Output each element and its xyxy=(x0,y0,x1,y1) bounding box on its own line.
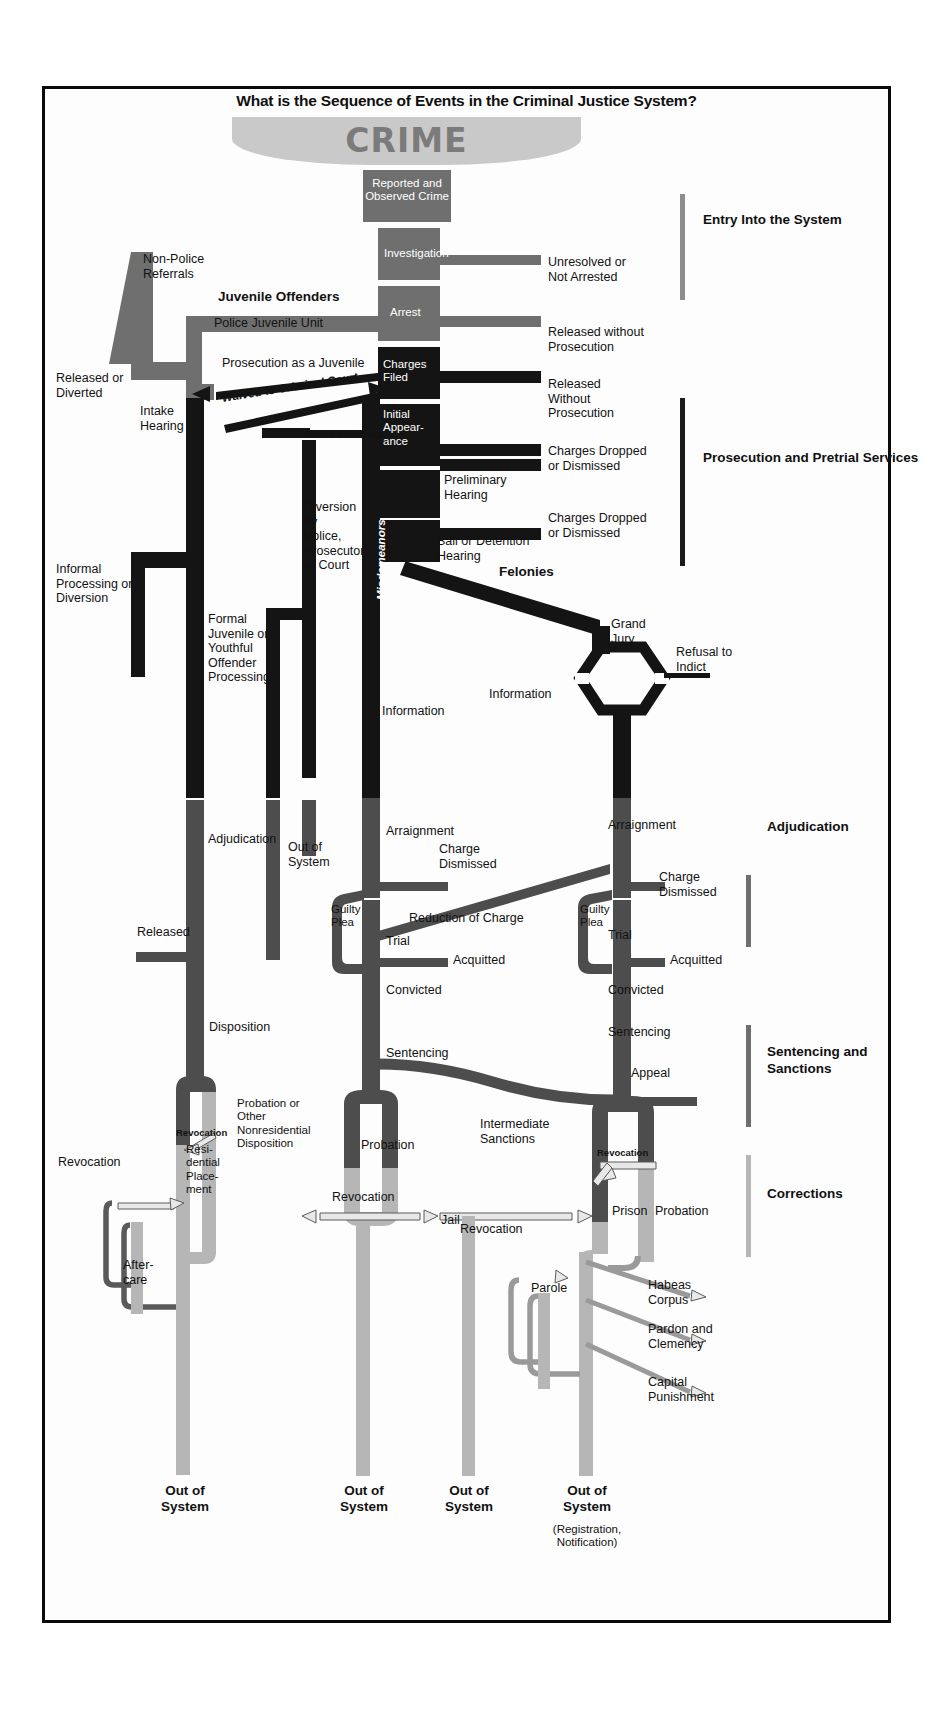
label-charge-dismissed-misdemeanor: Charge Dismissed xyxy=(439,842,497,871)
label-guilty-plea-misdemeanor: Guilty Plea xyxy=(331,903,360,930)
terminal-out-of-system-3: Out of System xyxy=(432,1483,506,1514)
section-bar-entry xyxy=(680,194,685,300)
label-probation-felony: Probation xyxy=(655,1204,709,1219)
label-released-without-prosecution-2: Released Without Prosecution xyxy=(548,377,614,421)
label-charge-dismissed-felony: Charge Dismissed xyxy=(659,870,717,899)
label-adjudication-juvenile: Adjudication xyxy=(208,832,276,847)
terminal-out-of-system-4-sub: (Registration, Notification) xyxy=(537,1523,637,1550)
label-informal-processing: Informal Processing or Diversion xyxy=(56,562,132,606)
label-felonies: Felonies xyxy=(499,564,554,580)
label-convicted-misdemeanor: Convicted xyxy=(386,983,442,998)
label-residential-placement: Resi- dential Place- ment xyxy=(186,1143,220,1196)
box-arrest: Arrest xyxy=(390,306,421,319)
label-released-juvenile: Released xyxy=(137,925,190,940)
label-disposition: Disposition xyxy=(209,1020,270,1035)
box-charges-filed: Charges Filed xyxy=(383,358,426,385)
label-refusal-to-indict: Refusal to Indict xyxy=(676,645,732,674)
label-revocation-juvenile-left: Revocation xyxy=(58,1155,121,1170)
label-intermediate-sanctions: Intermediate Sanctions xyxy=(480,1117,549,1146)
section-label-sentencing: Sentencing and Sanctions xyxy=(767,1044,934,1078)
label-revocation-misdemeanor: Revocation xyxy=(332,1190,395,1205)
label-released-or-diverted: Released or Diverted xyxy=(56,371,123,400)
label-arraignment-felony: Arraignment xyxy=(608,818,676,833)
section-bar-prosecution xyxy=(680,398,685,566)
label-sentencing-felony: Sentencing xyxy=(608,1025,671,1040)
label-police-juvenile-unit: Police Juvenile Unit xyxy=(214,316,323,331)
label-appeal: Appeal xyxy=(631,1066,670,1081)
terminal-out-of-system-1: Out of System xyxy=(148,1483,222,1514)
box-initial-appearance: Initial Appear- ance xyxy=(383,408,424,448)
crime-banner-label: CRIME xyxy=(232,121,581,160)
label-acquitted-felony: Acquitted xyxy=(670,953,722,968)
label-bail-or-detention-hearing: Bail or Detention Hearing xyxy=(437,534,529,563)
label-charges-dropped-1: Charges Dropped or Dismissed xyxy=(548,444,647,473)
label-reduction-of-charge: Reduction of Charge xyxy=(409,911,524,926)
label-acquitted-misdemeanor: Acquitted xyxy=(453,953,505,968)
label-out-of-system-juvenile-diversion: Out of System xyxy=(288,840,330,869)
label-arraignment-misdemeanor: Arraignment xyxy=(386,824,454,839)
section-bar-corrections xyxy=(746,1155,751,1257)
label-pardon-and-clemency: Pardon and Clemency xyxy=(648,1322,713,1351)
terminal-out-of-system-4: Out of System xyxy=(549,1483,625,1514)
label-convicted-felony: Convicted xyxy=(608,983,664,998)
box-reported-observed-crime: Reported and Observed Crime xyxy=(363,177,451,204)
label-trial-felony: Trial xyxy=(608,928,632,943)
label-non-police-referrals: Non-Police Referrals xyxy=(143,252,204,281)
label-unresolved-not-arrested: Unresolved or Not Arrested xyxy=(548,255,626,284)
label-failed-diversion: Failed Diversion xyxy=(305,428,386,440)
label-revocation-parole: Revocation xyxy=(460,1222,523,1237)
label-probation-nonresidential-disposition: Probation or Other Nonresidential Dispos… xyxy=(237,1097,311,1150)
section-label-entry: Entry Into the System xyxy=(703,212,842,229)
label-revocation-juvenile-upper: Revocation xyxy=(176,1127,227,1138)
label-information-misdemeanor: Information xyxy=(382,704,445,719)
label-habeas-corpus: Habeas Corpus xyxy=(648,1278,691,1307)
label-formal-juvenile-processing: Formal Juvenile or Youthful Offender Pro… xyxy=(208,612,270,685)
label-preliminary-hearing: Preliminary Hearing xyxy=(444,473,507,502)
label-capital-punishment: Capital Punishment xyxy=(648,1375,714,1404)
label-charges-dropped-2: Charges Dropped or Dismissed xyxy=(548,511,647,540)
section-bar-sentencing xyxy=(746,1025,751,1127)
box-investigation: Investigation xyxy=(384,247,449,260)
label-parole: Parole xyxy=(531,1281,567,1296)
terminal-out-of-system-2: Out of System xyxy=(327,1483,401,1514)
label-guilty-plea-felony: Guilty Plea xyxy=(580,903,609,930)
label-diversion-by-police-prosecutor-court: Diversion by Police, Prosecutor or Court xyxy=(304,500,364,573)
section-label-corrections: Corrections xyxy=(767,1186,843,1203)
label-intake-hearing: Intake Hearing xyxy=(140,404,184,433)
section-bar-adjudication xyxy=(746,875,751,947)
page-title: What is the Sequence of Events in the Cr… xyxy=(42,92,891,110)
label-revocation-prison: Revocation xyxy=(597,1147,648,1158)
label-misdemeanors: Misdemeanors xyxy=(375,519,388,600)
section-label-prosecution: Prosecution and Pretrial Services xyxy=(703,450,918,467)
label-probation-misdemeanor: Probation xyxy=(361,1138,415,1153)
label-information-grand-jury: Information xyxy=(489,687,552,702)
label-aftercare: After- care xyxy=(123,1258,154,1287)
section-label-adjudication: Adjudication xyxy=(767,819,849,836)
criminal-justice-flowchart: What is the Sequence of Events in the Cr… xyxy=(0,0,934,1725)
label-released-without-prosecution-1: Released without Prosecution xyxy=(548,325,644,354)
label-grand-jury: Grand Jury xyxy=(611,617,646,646)
label-sentencing-misdemeanor: Sentencing xyxy=(386,1046,449,1061)
label-prosecution-as-juvenile: Prosecution as a Juvenile xyxy=(222,356,364,371)
label-jail: Jail xyxy=(441,1213,460,1228)
label-juvenile-offenders-heading: Juvenile Offenders xyxy=(218,289,340,305)
label-trial-misdemeanor: Trial xyxy=(386,934,410,949)
label-prison: Prison xyxy=(612,1204,647,1219)
